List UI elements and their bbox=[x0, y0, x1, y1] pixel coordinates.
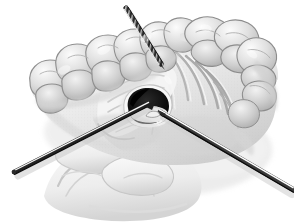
illustration-canvas bbox=[0, 0, 294, 224]
surgical-illustration: Grayscale medical illustration of the up… bbox=[0, 0, 294, 224]
tooth bbox=[228, 100, 259, 128]
